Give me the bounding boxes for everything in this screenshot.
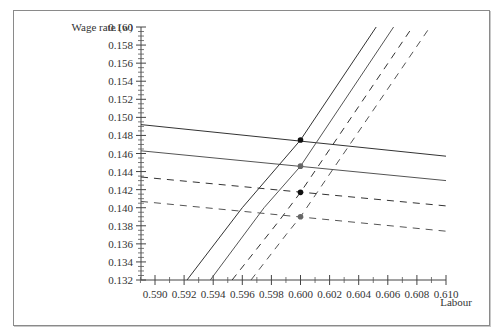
y-tick-label: 0.156 (108, 57, 133, 69)
y-tick-label: 0.132 (108, 274, 133, 286)
y-tick-label: 0.140 (108, 202, 133, 214)
x-tick-label: 0.596 (230, 288, 255, 300)
data-point-4 (298, 214, 304, 220)
y-tick-label: 0.152 (108, 93, 133, 105)
data-point-3 (298, 190, 304, 196)
series-line-4 (141, 201, 446, 231)
x-axis-title: Labour (440, 296, 472, 308)
x-tick-label: 0.600 (288, 288, 313, 300)
series-line-1 (141, 125, 446, 157)
y-tick-label: 0.146 (108, 148, 133, 160)
y-tick-label: 0.138 (108, 220, 133, 232)
y-tick-label: 0.144 (108, 166, 133, 178)
data-point-1 (298, 137, 304, 143)
series-line-8 (251, 27, 430, 280)
equilibrium-points (298, 137, 304, 219)
x-tick-label: 0.608 (405, 288, 430, 300)
x-tick-label: 0.594 (201, 288, 226, 300)
x-tick-label: 0.590 (143, 288, 168, 300)
data-point-2 (298, 163, 304, 169)
x-tick-label: 0.592 (172, 288, 197, 300)
series-line-3 (141, 177, 446, 206)
y-axis-title: Wage rate (w) (72, 21, 134, 34)
y-tick-label: 0.134 (108, 256, 133, 268)
y-tick-label: 0.142 (108, 184, 133, 196)
chart-plot: 0.1600.1580.1560.1540.1520.1500.1480.146… (0, 0, 499, 336)
axes: 0.1600.1580.1560.1540.1520.1500.1480.146… (108, 21, 459, 300)
y-tick-label: 0.148 (108, 129, 133, 141)
y-tick-label: 0.150 (108, 111, 133, 123)
series-lines (141, 27, 446, 280)
y-tick-label: 0.158 (108, 39, 133, 51)
y-tick-label: 0.154 (108, 75, 133, 87)
series-line-2 (141, 151, 446, 181)
x-tick-label: 0.598 (259, 288, 284, 300)
y-tick-label: 0.136 (108, 238, 133, 250)
series-line-5 (187, 27, 376, 280)
series-line-7 (232, 27, 412, 280)
x-tick-label: 0.604 (346, 288, 371, 300)
x-tick-label: 0.606 (375, 288, 400, 300)
series-line-6 (210, 27, 393, 280)
x-tick-label: 0.602 (317, 288, 342, 300)
